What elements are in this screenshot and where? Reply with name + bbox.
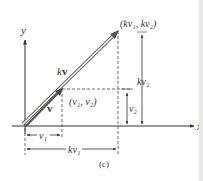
y-axis-label: y: [20, 24, 26, 36]
v2-label: v₂: [129, 103, 137, 114]
figure-caption: (c): [99, 159, 109, 169]
v1-label: v₁: [39, 130, 47, 141]
kv-tip-label: (kv₁, kv₂): [120, 18, 157, 30]
vector-kv: [23, 30, 119, 124]
v-tip-label: (v₁, v₂): [69, 96, 97, 108]
v-vector-label: v: [47, 102, 53, 114]
page-edge: [199, 0, 203, 181]
kv1-label: kv₁: [68, 144, 80, 155]
kv-vector-label: kv: [57, 65, 68, 77]
scalar-multiplication-diagram: x y kv v (v₁, v₂) (kv₁, kv₂) v₂ kv₂: [0, 0, 203, 181]
vector-v: [26, 88, 63, 126]
kv2-label: kv₂: [137, 76, 150, 87]
